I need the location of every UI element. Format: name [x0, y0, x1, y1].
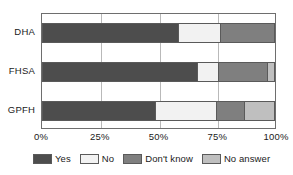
- bar-row: [42, 62, 275, 82]
- bar-segment: [219, 62, 268, 82]
- stacked-bar-chart: DHAFHSAGPFH 0%25%50%75%100% YesNoDon't k…: [0, 0, 293, 175]
- bar-segment: [268, 62, 275, 82]
- bar-segment: [198, 62, 219, 82]
- bar-segment: [42, 101, 156, 121]
- bars-layer: [42, 14, 275, 128]
- x-axis-label-0: 0%: [34, 131, 48, 142]
- bar-segment: [221, 23, 275, 43]
- bar-segment: [245, 101, 275, 121]
- legend-swatch-icon: [80, 154, 99, 164]
- bar-segment: [42, 23, 179, 43]
- legend-item[interactable]: No answer: [202, 153, 270, 164]
- y-axis-label-gpfh: GPFH: [0, 104, 38, 115]
- bar-row: [42, 101, 275, 121]
- legend-swatch-icon: [123, 154, 142, 164]
- legend-label: Don't know: [145, 153, 193, 164]
- bar-segment: [179, 23, 221, 43]
- legend-label: Yes: [55, 153, 71, 164]
- y-axis-label-dha: DHA: [0, 26, 38, 37]
- bar-segment: [217, 101, 245, 121]
- legend-swatch-icon: [202, 154, 221, 164]
- y-axis-label-fhsa: FHSA: [0, 65, 38, 76]
- x-axis-label-75: 75%: [207, 131, 227, 142]
- legend-item[interactable]: No: [80, 153, 114, 164]
- plot-area: [41, 13, 276, 129]
- legend-label: No: [102, 153, 114, 164]
- legend-swatch-icon: [33, 154, 52, 164]
- x-axis-label-50: 50%: [149, 131, 169, 142]
- chart-legend: YesNoDon't knowNo answer: [33, 151, 269, 166]
- y-axis-tick-labels: DHAFHSAGPFH: [0, 13, 38, 129]
- legend-item[interactable]: Don't know: [123, 153, 193, 164]
- x-axis-label-100: 100%: [263, 131, 288, 142]
- legend-item[interactable]: Yes: [33, 153, 71, 164]
- bar-segment: [156, 101, 217, 121]
- bar-row: [42, 23, 275, 43]
- x-axis-tick-labels: 0%25%50%75%100%: [41, 131, 276, 145]
- bar-segment: [42, 62, 198, 82]
- x-axis-label-25: 25%: [90, 131, 110, 142]
- legend-label: No answer: [224, 153, 270, 164]
